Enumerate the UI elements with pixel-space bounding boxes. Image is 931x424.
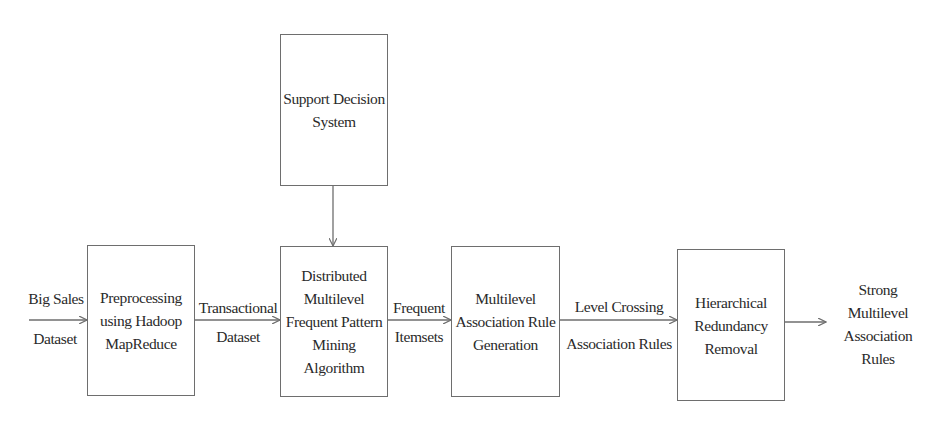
node-distributed-mining: Distributed Multilevel Frequent Pattern … bbox=[280, 246, 388, 397]
output-line: Multilevel bbox=[830, 301, 926, 324]
node-line: Mining bbox=[286, 333, 382, 356]
node-line: Hierarchical bbox=[694, 291, 767, 314]
node-preprocessing: Preprocessing using Hadoop MapReduce bbox=[87, 245, 195, 396]
node-line: Multilevel bbox=[286, 287, 382, 310]
node-line: Multilevel bbox=[456, 287, 556, 310]
output-line: Strong bbox=[830, 278, 926, 301]
node-line: Distributed bbox=[286, 264, 382, 287]
node-rule-generation: Multilevel Association Rule Generation bbox=[451, 246, 560, 397]
node-line: Association Rule bbox=[456, 310, 556, 333]
label-e3-bottom: Association Rules bbox=[562, 334, 676, 354]
output-line: Association bbox=[830, 324, 926, 347]
node-line: Preprocessing bbox=[100, 286, 182, 309]
output-strong-rules: Strong Multilevel Association Rules bbox=[830, 278, 926, 370]
node-line: Support Decision bbox=[283, 87, 385, 110]
label-e1-top: Transactional bbox=[196, 298, 280, 318]
node-line: Frequent Pattern bbox=[286, 310, 382, 333]
label-e2-bottom: Itemsets bbox=[388, 327, 450, 347]
label-e3-top: Level Crossing bbox=[562, 297, 676, 317]
node-line: Removal bbox=[694, 337, 767, 360]
output-line: Rules bbox=[830, 347, 926, 370]
label-e1-bottom: Dataset bbox=[196, 327, 280, 347]
node-line: using Hadoop bbox=[100, 309, 182, 332]
node-line: Algorithm bbox=[286, 356, 382, 379]
label-input-bottom: Dataset bbox=[30, 329, 80, 349]
node-line: Redundancy bbox=[694, 314, 767, 337]
label-input-top: Big Sales bbox=[28, 289, 84, 309]
node-support-decision-system: Support Decision System bbox=[280, 34, 388, 186]
node-line: Generation bbox=[456, 333, 556, 356]
node-line: MapReduce bbox=[100, 332, 182, 355]
label-e2-top: Frequent bbox=[388, 298, 450, 318]
node-line: System bbox=[283, 110, 385, 133]
node-redundancy-removal: Hierarchical Redundancy Removal bbox=[677, 249, 785, 401]
